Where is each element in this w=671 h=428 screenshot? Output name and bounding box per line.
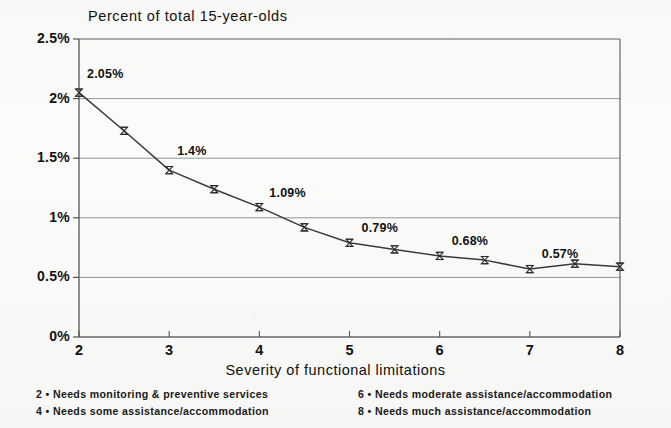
data-point-value-label: 2.05% (87, 67, 123, 81)
x-axis-title: Severity of functional limitations (0, 362, 671, 378)
x-axis-tick-label: 6 (420, 342, 460, 358)
legend-entry: 6 • Needs moderate assistance/accommodat… (358, 388, 646, 405)
data-point-marker (121, 127, 128, 134)
axes-group (79, 39, 620, 337)
x-axis-tick-label: 3 (149, 342, 189, 358)
chart-figure: Percent of total 15-year-olds 0%0.5%1%1.… (0, 0, 671, 428)
y-tick-marks-group (73, 39, 79, 337)
y-axis-tick-label: 1% (4, 209, 70, 225)
data-point-marker (256, 204, 263, 211)
x-axis-tick-label: 4 (239, 342, 279, 358)
legend-entry: 2 • Needs monitoring & preventive servic… (36, 388, 358, 405)
x-axis-tick-label: 7 (510, 342, 550, 358)
data-point-markers-group (76, 89, 624, 273)
data-point-value-label: 0.79% (362, 221, 398, 235)
x-axis-tick-label: 8 (600, 342, 640, 358)
data-point-value-label: 1.09% (269, 186, 305, 200)
data-point-value-label: 0.57% (542, 247, 578, 261)
y-axis-tick-label: 1.5% (4, 149, 70, 165)
severity-code-legend: 2 • Needs monitoring & preventive servic… (36, 388, 646, 422)
x-tick-marks-group (79, 331, 620, 337)
legend-entry: 8 • Needs much assistance/accommodation (358, 405, 646, 422)
x-axis-tick-label: 5 (330, 342, 370, 358)
y-axis-tick-label: 0.5% (4, 268, 70, 284)
x-axis-tick-label: 2 (59, 342, 99, 358)
gridlines-group (79, 39, 620, 337)
data-point-value-label: 0.68% (452, 234, 488, 248)
data-point-marker (166, 167, 173, 174)
y-axis-tick-label: 2% (4, 90, 70, 106)
data-point-marker (301, 224, 308, 231)
legend-entry: 4 • Needs some assistance/accommodation (36, 405, 358, 422)
data-point-marker (211, 186, 218, 193)
y-axis-tick-label: 2.5% (4, 30, 70, 46)
data-point-value-label: 1.4% (177, 144, 206, 158)
